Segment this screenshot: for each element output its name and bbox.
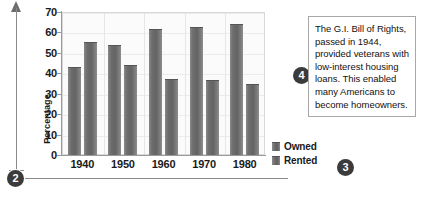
annotation-horizontal-line xyxy=(16,178,288,179)
bar-owned-1970 xyxy=(190,27,203,155)
x-axis-label-1970: 1970 xyxy=(182,158,226,170)
bar-owned-1980 xyxy=(230,24,243,155)
chart-legend: Owned Rented xyxy=(272,140,317,168)
y-axis-tick-label: 50 xyxy=(0,47,57,59)
y-axis-tick-value: 10 xyxy=(9,129,57,141)
callout-marker-2[interactable]: 2 xyxy=(7,170,24,187)
bar-series-group xyxy=(62,12,265,155)
y-axis-tick-value: 30 xyxy=(9,88,57,100)
legend-swatch-icon xyxy=(272,142,280,151)
chart-figure: 2 3 4 Percentage 010203040506070 1940195… xyxy=(0,0,421,209)
y-axis-tick-label: 60 xyxy=(0,26,57,38)
y-axis-tick-value: 20 xyxy=(9,108,57,120)
bar-rented-1980 xyxy=(246,84,259,156)
y-axis-tick xyxy=(57,12,61,13)
y-axis-tick-value: 50 xyxy=(9,47,57,59)
y-axis-tick-label: 70 xyxy=(0,6,57,18)
y-axis-tick xyxy=(57,73,61,74)
y-axis-tick-label: 40 xyxy=(0,67,57,79)
y-axis-tick-value: 0 xyxy=(9,149,57,161)
legend-swatch-icon xyxy=(272,156,280,165)
y-axis-tick xyxy=(57,94,61,95)
bar-rented-1960 xyxy=(165,79,178,155)
legend-item-owned[interactable]: Owned xyxy=(272,140,317,152)
y-axis-tick-label: 30 xyxy=(0,88,57,100)
y-axis-tick-value: 40 xyxy=(9,67,57,79)
bar-rented-1970 xyxy=(206,80,219,155)
x-axis-label-1940: 1940 xyxy=(60,158,104,170)
y-axis-tick-label: 10 xyxy=(0,129,57,141)
y-axis-tick-value: 70 xyxy=(9,6,57,18)
y-axis-tick xyxy=(57,114,61,115)
bar-owned-1940 xyxy=(68,67,81,155)
y-axis-tick-value: 60 xyxy=(9,26,57,38)
callout-textbox: The G.I. Bill of Rights, passed in 1944,… xyxy=(308,16,416,117)
callout-marker-3[interactable]: 3 xyxy=(337,159,354,176)
x-axis-line xyxy=(61,155,266,156)
bar-rented-1950 xyxy=(124,65,137,155)
legend-item-rented[interactable]: Rented xyxy=(272,154,317,166)
legend-label-rented: Rented xyxy=(284,155,317,166)
y-axis-tick xyxy=(57,53,61,54)
y-axis-tick-label: 20 xyxy=(0,108,57,120)
x-axis-label-1960: 1960 xyxy=(142,158,186,170)
y-axis-tick xyxy=(57,155,61,156)
bar-rented-1940 xyxy=(84,42,97,155)
bar-owned-1950 xyxy=(108,45,121,155)
y-axis-tick xyxy=(57,32,61,33)
x-axis-label-1980: 1980 xyxy=(223,158,267,170)
legend-label-owned: Owned xyxy=(284,141,317,152)
y-axis-tick-label: 0 xyxy=(0,149,57,161)
y-axis-tick xyxy=(57,135,61,136)
bar-owned-1960 xyxy=(149,29,162,155)
x-axis-label-1950: 1950 xyxy=(101,158,145,170)
